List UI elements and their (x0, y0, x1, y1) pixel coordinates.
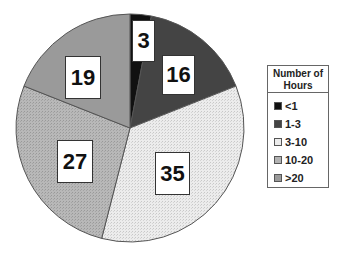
legend-item-3-10: 3-10 (268, 133, 328, 151)
legend-label: <1 (285, 100, 298, 112)
legend-swatch (274, 120, 282, 128)
data-label-3-10: 35 (155, 152, 190, 195)
data-label-1-3: 16 (162, 55, 195, 95)
legend-title: Number of Hours (268, 66, 328, 93)
legend-item-10-20: 10-20 (268, 151, 328, 169)
data-label-gt20: 19 (65, 56, 101, 99)
legend-item-gt20: >20 (268, 169, 328, 187)
legend-label: 3-10 (285, 136, 307, 148)
legend-swatch (274, 156, 282, 164)
legend-label: 10-20 (285, 154, 313, 166)
data-label-lt1: 3 (132, 20, 155, 62)
legend-swatch (274, 102, 282, 110)
chart-legend: Number of Hours <1 1-3 3-10 10-20 >20 (267, 65, 329, 188)
legend-swatch (274, 174, 282, 182)
legend-label: >20 (285, 172, 304, 184)
legend-label: 1-3 (285, 118, 301, 130)
legend-title-line1: Number of (269, 68, 327, 80)
legend-item-lt1: <1 (268, 97, 328, 115)
legend-title-line2: Hours (269, 80, 327, 92)
legend-item-1-3: 1-3 (268, 115, 328, 133)
data-label-10-20: 27 (57, 140, 93, 183)
legend-swatch (274, 138, 282, 146)
